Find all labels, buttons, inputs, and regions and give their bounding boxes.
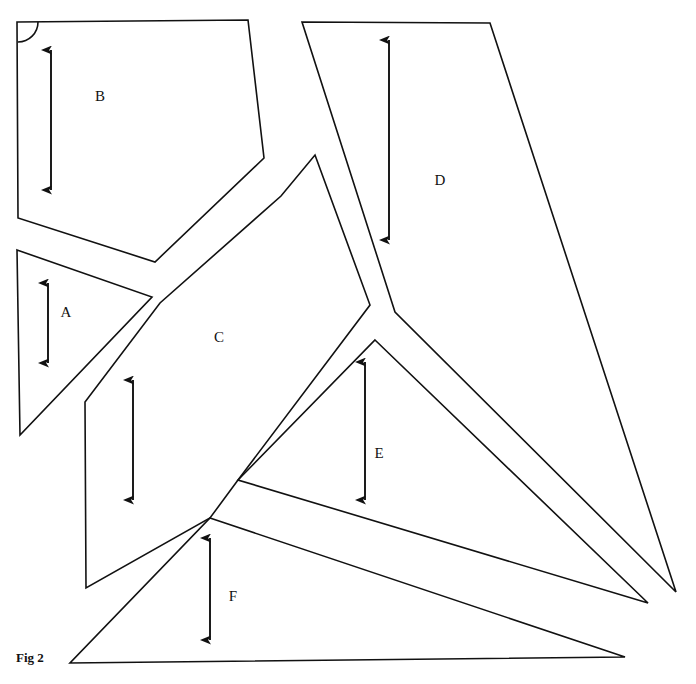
figure-container: A B C D E F Fig 2: [0, 0, 696, 684]
shape-label-c: C: [214, 329, 224, 345]
figure-canvas: A B C D E F Fig 2: [0, 0, 696, 684]
shape-label-e: E: [374, 445, 383, 461]
shape-label-d: D: [435, 172, 446, 188]
shape-label-f: F: [229, 588, 237, 604]
figure-caption: Fig 2: [16, 650, 44, 665]
shape-label-a: A: [61, 304, 72, 320]
shape-label-b: B: [95, 88, 105, 104]
